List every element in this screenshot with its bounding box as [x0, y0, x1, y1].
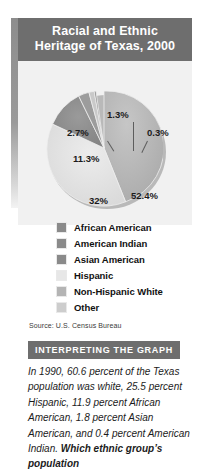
pie-label-non-hispanic-white: 52.4%: [131, 190, 158, 201]
legend-swatch-icon: [56, 254, 67, 265]
legend-label: Non-Hispanic White: [74, 286, 163, 297]
pie-chart-area: 52.4% 32% 11.3% 2.7% 0.3% 1.3%: [18, 61, 192, 221]
legend-swatch-icon: [56, 238, 67, 249]
chart-title-line-1: Racial and Ethnic: [22, 24, 188, 39]
legend-item-hispanic: Hispanic: [56, 267, 196, 283]
pie-chart: 52.4% 32% 11.3% 2.7% 0.3% 1.3%: [45, 89, 163, 207]
legend-item-american-indian: American Indian: [56, 235, 196, 251]
passage-body: In 1990, 60.6 percent of the Texas popul…: [28, 366, 190, 454]
legend-label: African American: [74, 222, 152, 233]
pie-label-african-american: 11.3%: [73, 153, 99, 164]
legend-swatch-icon: [56, 270, 67, 281]
legend-item-non-hispanic-white: Non-Hispanic White: [56, 283, 196, 299]
chart-title-banner: Racial and Ethnic Heritage of Texas, 200…: [18, 18, 192, 61]
legend-item-asian-american: Asian American: [56, 251, 196, 267]
legend-label: Other: [74, 302, 99, 313]
chart-card: Racial and Ethnic Heritage of Texas, 200…: [18, 18, 192, 225]
legend-swatch-icon: [56, 286, 67, 297]
legend-label: Hispanic: [74, 270, 113, 281]
interpreting-the-graph-banner: INTERPRETING THE GRAPH: [28, 341, 180, 359]
leader-line-other: [133, 122, 134, 151]
chart-legend: African American American Indian Asian A…: [56, 219, 196, 315]
pie-label-other: 1.3%: [107, 109, 129, 120]
legend-item-african-american: African American: [56, 219, 196, 235]
legend-swatch-icon: [56, 222, 67, 233]
pie-label-american-indian: 0.3%: [147, 127, 169, 138]
legend-label: Asian American: [74, 254, 145, 265]
legend-swatch-icon: [56, 302, 67, 313]
left-accent-rule: [11, 18, 18, 208]
chart-title-line-2: Heritage of Texas, 2000: [22, 39, 188, 54]
legend-label: American Indian: [74, 238, 147, 249]
pie-label-hispanic: 32%: [89, 195, 108, 206]
interpreting-passage: In 1990, 60.6 percent of the Texas popul…: [28, 364, 200, 472]
pie-label-asian-american: 2.7%: [67, 127, 89, 138]
legend-item-other: Other: [56, 299, 196, 315]
chart-source: Source: U.S. Census Bureau: [29, 322, 121, 329]
